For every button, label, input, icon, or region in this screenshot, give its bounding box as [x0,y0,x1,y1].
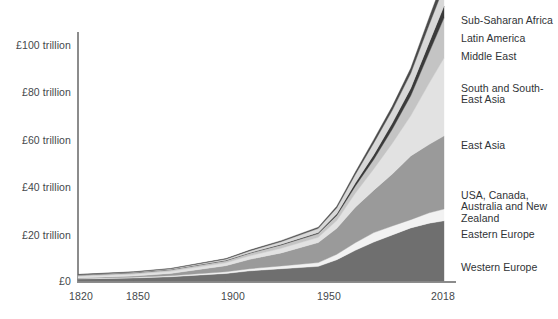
legend-label-usa-canada-australia-new-zealand: USA, Canada, Australia and New Zealand [461,190,547,224]
stacked-area-chart: £100 trillion £80 trillion £60 trillion … [0,0,558,319]
legend-label-western-europe: Western Europe [461,262,537,273]
legend-label-middle-east: Middle East [461,51,516,62]
x-axis-tick-label: 1820 [61,290,101,302]
x-axis-tick-label: 1950 [309,290,349,302]
x-axis-tick-label: 1850 [118,290,158,302]
legend-label-eastern-europe: Eastern Europe [461,229,535,240]
legend-label-sub-saharan-africa: Sub-Saharan Africa [461,15,553,26]
legend-label-latin-america: Latin America [461,33,525,44]
legend-label-east-asia: East Asia [461,140,505,151]
legend-label-south-and-south-east-asia: South and South- East Asia [461,83,544,106]
x-axis-tick-label: 2018 [423,290,463,302]
x-axis-tick-label: 1900 [213,290,253,302]
